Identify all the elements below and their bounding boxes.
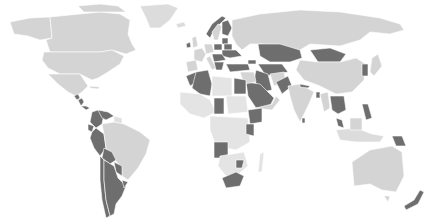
country-georgia[interactable]: [248, 60, 256, 64]
country-sri-lanka[interactable]: [302, 118, 305, 123]
country-madagascar[interactable]: [258, 152, 264, 172]
world-map: [0, 0, 433, 222]
country-egypt[interactable]: [234, 78, 246, 94]
country-korea[interactable]: [362, 64, 368, 76]
country-chad[interactable]: [214, 98, 224, 114]
asia: [232, 10, 406, 146]
country-philippines[interactable]: [362, 104, 372, 120]
country-costa-rica-panama[interactable]: [81, 106, 90, 110]
country-baltics[interactable]: [222, 38, 228, 44]
country-mongolia[interactable]: [310, 48, 346, 62]
country-ethiopia[interactable]: [248, 108, 262, 124]
south-america: [88, 110, 150, 218]
country-balkans[interactable]: [214, 62, 224, 70]
country-cuba[interactable]: [90, 86, 100, 89]
north-america: [10, 4, 136, 96]
country-kenya[interactable]: [246, 124, 254, 136]
country-canada[interactable]: [46, 12, 136, 54]
country-alaska[interactable]: [10, 17, 52, 40]
country-libya[interactable]: [212, 76, 232, 96]
country-ireland[interactable]: [186, 42, 191, 48]
country-tasmania[interactable]: [384, 196, 390, 202]
country-new-zealand[interactable]: [404, 190, 424, 210]
country-southern-africa[interactable]: [218, 152, 248, 176]
country-iceland[interactable]: [176, 22, 186, 28]
country-turkey[interactable]: [226, 64, 250, 72]
central-america: [74, 94, 90, 110]
country-papua-new-guinea[interactable]: [392, 136, 406, 146]
country-malaysia[interactable]: [336, 118, 344, 128]
country-mexico[interactable]: [48, 74, 88, 96]
world-map-svg: [0, 0, 433, 222]
country-japan[interactable]: [370, 54, 382, 76]
country-india[interactable]: [288, 84, 314, 122]
country-belarus[interactable]: [224, 44, 232, 50]
oceania: [352, 146, 424, 210]
country-honduras-nicaragua[interactable]: [78, 98, 84, 106]
country-nepal[interactable]: [300, 84, 310, 88]
country-poland[interactable]: [214, 44, 222, 50]
country-west-africa[interactable]: [180, 92, 216, 118]
country-canada-islands[interactable]: [78, 4, 126, 12]
country-greenland[interactable]: [140, 4, 178, 28]
country-uk[interactable]: [192, 36, 198, 48]
country-sudan[interactable]: [226, 96, 248, 114]
country-finland[interactable]: [222, 20, 232, 36]
country-bangladesh[interactable]: [316, 92, 320, 98]
country-borneo[interactable]: [350, 118, 362, 130]
country-germany-central[interactable]: [204, 44, 214, 54]
country-australia[interactable]: [352, 146, 404, 192]
country-myanmar[interactable]: [320, 92, 330, 112]
country-thailand-indochina[interactable]: [330, 96, 346, 114]
country-ukraine[interactable]: [222, 50, 242, 58]
country-iberia[interactable]: [186, 60, 198, 72]
